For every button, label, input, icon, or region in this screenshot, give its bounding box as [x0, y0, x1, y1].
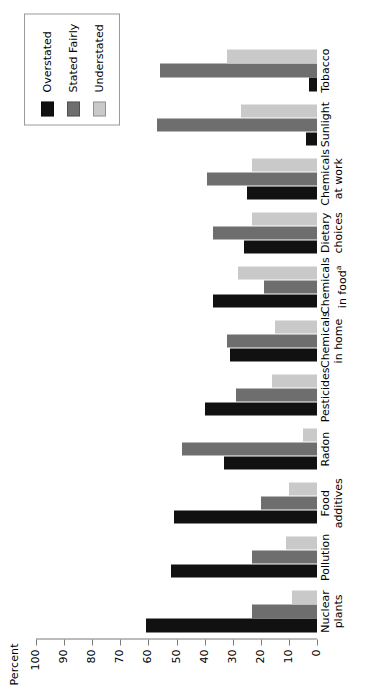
bar-group [36, 313, 317, 367]
bar-group [36, 476, 317, 530]
legend-item: Overstated [34, 22, 60, 116]
y-axis-tick [317, 639, 318, 645]
bar-understated [303, 428, 317, 441]
y-axis-title: Percent [8, 643, 21, 685]
bar-understated [275, 320, 317, 333]
y-axis-tick-label: 0 [310, 649, 323, 689]
bar-understated [289, 482, 317, 495]
y-axis-tick [177, 639, 178, 645]
category-label: Chemicalsat work [320, 151, 345, 205]
y-axis-tick-label: 90 [57, 649, 70, 689]
y-axis-tick [205, 639, 206, 645]
bar-overstated [224, 456, 317, 469]
legend-item: Stated Fairly [60, 22, 86, 116]
category-label: Chemicalsin fooda [320, 259, 349, 313]
category-label: Pesticides [320, 368, 333, 422]
y-axis-tick-label: 80 [85, 649, 98, 689]
bar-stated-fairly [157, 118, 317, 131]
legend-swatch-stated-fairly [67, 101, 80, 116]
legend-label-overstated: Overstated [41, 31, 54, 92]
bar-stated-fairly [227, 334, 317, 347]
y-axis-tick-label: 70 [113, 649, 126, 689]
bar-group [36, 422, 317, 476]
bar-overstated [205, 402, 317, 415]
legend-swatch-overstated [41, 101, 54, 116]
legend-label-understated: Understated [93, 24, 106, 92]
bar-group [36, 259, 317, 313]
bar-understated [286, 536, 317, 549]
bar-stated-fairly [213, 226, 317, 239]
bar-overstated [247, 186, 317, 199]
bar-stated-fairly [236, 388, 317, 401]
legend-label-stated-fairly: Stated Fairly [67, 23, 80, 92]
bar-group [36, 151, 317, 205]
legend-item: Understated [86, 22, 112, 116]
bar-overstated [309, 77, 317, 90]
bar-overstated [146, 618, 317, 631]
bar-stated-fairly [207, 172, 317, 185]
y-axis-tick-label: 50 [170, 649, 183, 689]
category-label: Radon [320, 422, 333, 476]
bars-plot-area [36, 43, 317, 638]
y-axis-tick-label: 20 [254, 649, 267, 689]
y-axis-tick [64, 639, 65, 645]
category-label: Dietarychoices [320, 205, 345, 259]
y-axis-tick-label: 30 [226, 649, 239, 689]
bar-stated-fairly [261, 496, 317, 509]
bar-understated [238, 266, 317, 279]
category-label: Chemicalsin home [320, 313, 345, 367]
category-label: Foodadditives [320, 476, 345, 530]
y-axis-tick [148, 639, 149, 645]
bar-understated [252, 158, 317, 171]
y-axis-tick [233, 639, 234, 645]
x-axis-category-labels: NuclearplantsPollutionFoodadditivesRadon… [320, 43, 380, 638]
bar-understated [292, 590, 317, 603]
bar-stated-fairly [264, 280, 317, 293]
y-axis-tick [36, 639, 37, 645]
y-axis-tick-label: 100 [29, 649, 42, 689]
y-axis-tick-label: 40 [198, 649, 211, 689]
chart-figure: Percent 0102030405060708090100 Nuclearpl… [0, 0, 384, 691]
bar-group [36, 530, 317, 584]
bar-understated [252, 212, 317, 225]
bar-overstated [244, 240, 317, 253]
category-label: Pollution [320, 530, 333, 584]
category-label: Tobacco [320, 43, 333, 97]
bar-stated-fairly [160, 63, 317, 76]
bar-overstated [306, 132, 317, 145]
y-axis-tick-labels: 0102030405060708090100 [36, 649, 317, 691]
chart-legend: Overstated Stated Fairly Understated [24, 13, 120, 125]
bar-overstated [171, 564, 317, 577]
y-axis-tick [120, 639, 121, 645]
bar-stated-fairly [252, 604, 317, 617]
bar-group [36, 205, 317, 259]
bar-understated [272, 374, 317, 387]
category-label: Sunlight [320, 97, 333, 151]
bar-stated-fairly [252, 550, 317, 563]
y-axis-tick-label: 10 [282, 649, 295, 689]
y-axis-tick-label: 60 [141, 649, 154, 689]
category-label: Nuclearplants [320, 584, 345, 638]
y-axis-tick [92, 639, 93, 645]
bar-group [36, 368, 317, 422]
bar-overstated [213, 294, 317, 307]
bar-understated [227, 49, 317, 62]
legend-swatch-understated [93, 101, 106, 116]
bar-stated-fairly [182, 442, 317, 455]
bar-overstated [230, 348, 317, 361]
bar-overstated [174, 510, 317, 523]
bar-understated [241, 104, 317, 117]
y-axis-tick [261, 639, 262, 645]
bar-group [36, 584, 317, 638]
y-axis-tick [289, 639, 290, 645]
